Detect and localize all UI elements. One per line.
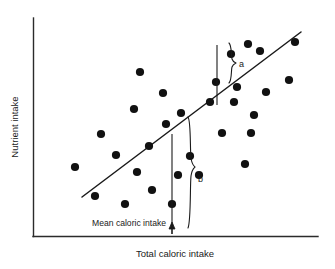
data-point <box>121 200 129 208</box>
data-point <box>112 151 120 159</box>
data-point <box>212 78 220 86</box>
mean-caloric-intake-group: Mean caloric intake <box>92 134 175 234</box>
x-axis-label: Total caloric intake <box>136 248 214 259</box>
scatter-plot-figure: a b Mean caloric intake Total caloric in… <box>0 0 335 269</box>
residual-a-brace <box>229 43 236 83</box>
data-point <box>230 98 238 106</box>
data-point <box>186 152 194 160</box>
data-point <box>145 142 153 150</box>
data-point <box>174 171 182 179</box>
data-point <box>159 89 167 97</box>
data-points-group <box>71 38 299 208</box>
data-point <box>206 98 214 106</box>
data-point <box>291 38 299 46</box>
data-point <box>71 163 79 171</box>
data-point <box>91 192 99 200</box>
data-point <box>250 111 258 119</box>
residual-a-label: a <box>239 59 244 69</box>
data-point <box>130 105 138 113</box>
y-axis-label: Nutrient intake <box>9 96 20 157</box>
data-point <box>148 186 156 194</box>
data-point <box>244 40 252 48</box>
data-point <box>162 120 170 128</box>
data-point <box>256 47 264 55</box>
deviation-b-brace <box>188 117 195 228</box>
deviation-b-label: b <box>198 174 203 184</box>
data-point <box>233 83 241 91</box>
data-point <box>97 130 105 138</box>
data-point <box>218 129 226 137</box>
data-point <box>177 109 185 117</box>
data-point <box>241 160 249 168</box>
data-point <box>133 168 141 176</box>
data-point <box>247 129 255 137</box>
mean-caloric-intake-label: Mean caloric intake <box>92 218 166 228</box>
data-point <box>262 88 270 96</box>
plot-canvas: a b Mean caloric intake Total caloric in… <box>0 0 335 269</box>
data-point <box>285 76 293 84</box>
data-point <box>136 68 144 76</box>
